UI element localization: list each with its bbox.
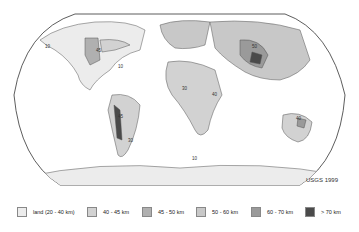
svg-text:30: 30 [128, 138, 134, 143]
legend-item-70-plus: > 70 km [305, 206, 341, 218]
legend-label: 40 - 45 km [103, 209, 129, 215]
legend-label: 60 - 70 km [267, 209, 293, 215]
legend-item-50-60: 50 - 60 km [196, 206, 238, 218]
legend-item-land: land (20 - 40 km) [17, 206, 75, 218]
svg-text:10: 10 [118, 64, 124, 69]
legend-swatch [196, 207, 206, 217]
svg-text:10: 10 [192, 156, 198, 161]
legend-label: 45 - 50 km [158, 209, 184, 215]
map-legend: land (20 - 40 km) 40 - 45 km 45 - 50 km … [0, 206, 359, 220]
svg-text:30: 30 [182, 86, 188, 91]
legend-swatch [305, 207, 315, 217]
map-credit: USGS 1999 [306, 177, 338, 183]
legend-label: > 70 km [321, 209, 341, 215]
legend-swatch [17, 207, 27, 217]
world-map: 10 45 10 45 30 30 40 50 40 10 [0, 0, 359, 200]
legend-label: land (20 - 40 km) [33, 209, 75, 215]
svg-text:50: 50 [252, 44, 258, 49]
legend-swatch [142, 207, 152, 217]
legend-swatch [87, 207, 97, 217]
svg-text:45: 45 [118, 114, 124, 119]
legend-label: 50 - 60 km [212, 209, 238, 215]
svg-text:40: 40 [212, 92, 218, 97]
map-graphic: 10 45 10 45 30 30 40 50 40 10 [0, 0, 359, 200]
legend-item-40-45: 40 - 45 km [87, 206, 129, 218]
legend-item-60-70: 60 - 70 km [251, 206, 293, 218]
legend-item-45-50: 45 - 50 km [142, 206, 184, 218]
legend-swatch [251, 207, 261, 217]
svg-text:45: 45 [96, 48, 102, 53]
svg-text:40: 40 [296, 116, 302, 121]
svg-text:10: 10 [45, 44, 51, 49]
